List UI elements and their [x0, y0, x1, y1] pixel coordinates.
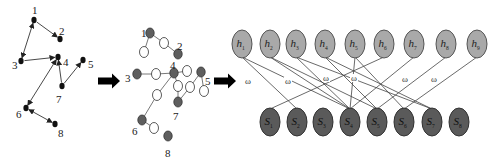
visible-node-s3: S3 [313, 108, 333, 136]
auxiliary-node [174, 81, 183, 92]
weighted-edge [355, 57, 404, 109]
original-graph-edges [22, 22, 81, 122]
auxiliary-node [160, 38, 169, 49]
visible-node-s4: S4 [340, 108, 360, 136]
weighted-edge [270, 57, 350, 109]
graph-node [55, 54, 60, 60]
graph-node [80, 57, 85, 63]
weighted-edge [325, 57, 432, 109]
visible-node-s8: S8 [449, 108, 469, 136]
expanded-graph-nodes: 12345768 [125, 27, 211, 159]
hidden-node-h9: h9 [467, 30, 487, 58]
arrow-right-icon [98, 74, 120, 89]
directed-edge [29, 110, 52, 123]
hidden-node-h2: h2 [260, 30, 280, 58]
hidden-layer: h1h2h3h4h5h6h7h8h9 [232, 30, 487, 58]
visible-node-s6: S6 [394, 108, 414, 136]
graph-node [52, 121, 57, 127]
directed-edge [37, 22, 57, 37]
hidden-node-h1: h1 [232, 30, 252, 58]
node-label: 8 [58, 127, 64, 139]
weight-labels: ωωωωωω [244, 73, 438, 86]
visible-node-s7: S7 [422, 108, 442, 136]
node-label: 3 [125, 72, 131, 84]
directed-edge [24, 57, 54, 60]
auxiliary-node [183, 66, 192, 77]
node-label: 4 [170, 59, 176, 71]
node-label: 4 [63, 56, 69, 68]
hidden-node-h7: h7 [404, 30, 424, 58]
original-node [138, 115, 146, 125]
visible-node-s2: S2 [287, 108, 307, 136]
node-label: 6 [16, 108, 22, 120]
hidden-node-h4: h4 [315, 30, 335, 58]
hidden-node-h8: h8 [436, 30, 456, 58]
node-label: 5 [88, 58, 94, 70]
visible-layer: S1S2S3S4S5S6S7S8 [260, 108, 469, 136]
node-label: 8 [165, 147, 171, 159]
bipartite-edges [242, 57, 477, 109]
original-node [197, 67, 205, 77]
auxiliary-node [152, 69, 161, 80]
auxiliary-node [153, 90, 162, 101]
auxiliary-node [186, 82, 195, 93]
diagram-canvas: 12345678 12345768 ωωωωωω h1h2h3h4h5h6h7h… [0, 0, 499, 163]
weighted-edge [404, 57, 477, 109]
hidden-node-h5: h5 [345, 30, 365, 58]
directed-edge [22, 23, 33, 57]
node-label: 2 [59, 25, 65, 37]
directed-edge [28, 60, 56, 105]
node-label: 6 [132, 125, 138, 137]
bipartite-network: ωωωωωω h1h2h3h4h5h6h7h8h9 S1S2S3S4S5S6S7… [232, 30, 487, 136]
arrow-right-icon [214, 74, 236, 89]
expanded-graph-edges [137, 33, 204, 128]
hidden-node-h3: h3 [286, 30, 306, 58]
original-node [146, 28, 154, 38]
node-label: 5 [205, 75, 211, 87]
original-graph-nodes: 12345678 [12, 4, 94, 139]
directed-edge [58, 60, 61, 82]
node-label: 7 [173, 110, 179, 122]
graph-node [23, 105, 28, 111]
graph-node [31, 17, 36, 23]
weight-label: ω [245, 76, 251, 86]
hidden-node-h6: h6 [374, 30, 394, 58]
node-label: 7 [56, 93, 62, 105]
auxiliary-node [140, 47, 149, 58]
visible-node-s1: S1 [260, 108, 280, 136]
graph-node [18, 58, 23, 64]
original-node [133, 69, 141, 79]
auxiliary-node [200, 86, 209, 97]
expanded-graph: 12345768 [125, 27, 211, 159]
transform-arrows [98, 74, 236, 89]
node-label: 3 [12, 59, 18, 71]
node-label: 1 [141, 27, 147, 39]
visible-node-s5: S5 [367, 108, 387, 136]
weight-label: ω [402, 74, 408, 84]
weight-label: ω [431, 74, 437, 84]
weight-label: ω [323, 73, 329, 83]
node-label: 1 [32, 4, 38, 16]
auxiliary-node [150, 123, 159, 134]
original-node [164, 131, 172, 141]
original-graph: 12345678 [12, 4, 94, 139]
node-label: 2 [177, 40, 183, 52]
weight-label: ω [351, 73, 357, 83]
graph-node [59, 83, 64, 89]
weight-label: ω [285, 76, 291, 86]
weighted-edge [242, 57, 350, 109]
original-node [174, 97, 182, 107]
